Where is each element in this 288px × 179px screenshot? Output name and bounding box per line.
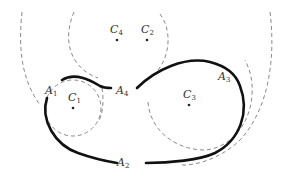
circle-arcs-diagram: C4 C2 C1 C3 A1 A2 A3 A4 [0,0,288,179]
arc-a4-top-left [62,77,111,88]
center-dot-c3 [188,104,191,107]
label-c4: C4 [110,23,123,37]
dashed-line-middle [98,88,103,122]
label-a3: A3 [217,70,230,84]
label-a4: A4 [115,84,129,98]
dashed-circle-large-right [180,12,272,165]
label-a2: A2 [116,156,129,170]
dashed-circle-c2 [158,14,168,70]
diagram-canvas: C4 C2 C1 C3 A1 A2 A3 A4 [0,0,288,179]
label-c1: C1 [68,91,81,105]
dashed-circle-large-left [21,12,40,105]
center-dot-c1 [72,107,75,110]
label-c2: C2 [141,23,154,37]
arc-a1-a2 [45,98,117,163]
label-c3: C3 [183,88,196,102]
center-dot-c4 [116,39,119,42]
dashed-circle-c4 [69,12,98,78]
center-dot-c2 [146,39,149,42]
dashed-circle-c3 [148,60,252,150]
